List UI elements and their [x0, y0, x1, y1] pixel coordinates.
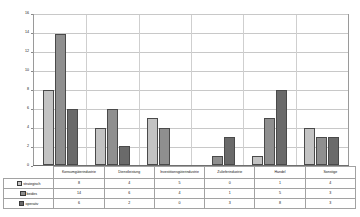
y-tick-mark: [31, 14, 33, 15]
bar[interactable]: [304, 128, 315, 166]
y-tick-label: 12: [25, 50, 29, 54]
table-value-cell: 5: [255, 189, 305, 199]
table-value-cell: 4: [154, 189, 204, 199]
table-row: operativ620383: [4, 199, 356, 209]
table-value-cell: 4: [104, 179, 154, 189]
legend-swatch-icon: [19, 201, 24, 206]
bar[interactable]: [159, 128, 170, 166]
table-header-row: KonsumgüterindustrieDienstleistungInvest…: [4, 167, 356, 179]
y-tick-label: 10: [25, 69, 29, 73]
y-tick-mark: [31, 128, 33, 129]
bar[interactable]: [43, 90, 54, 165]
bar-group: [34, 15, 86, 165]
y-tick-label: 4: [27, 126, 29, 130]
legend-swatch-icon: [17, 181, 22, 186]
table-category-header: Sonstige: [305, 167, 355, 179]
legend-entry[interactable]: strategisch: [4, 179, 54, 189]
bar[interactable]: [119, 146, 130, 165]
bar[interactable]: [147, 118, 158, 165]
table-category-header: Handel: [255, 167, 305, 179]
y-tick-label: 16: [25, 12, 29, 16]
bar[interactable]: [316, 137, 327, 165]
table-category-header: Investitionsgüterindustrie: [154, 167, 204, 179]
bar-groups: [34, 15, 348, 165]
table-category-header: Konsumgüterindustrie: [54, 167, 104, 179]
table-value-cell: 3: [305, 189, 355, 199]
bar-group: [191, 15, 243, 165]
y-tick-label: 14: [25, 31, 29, 35]
table-value-cell: 8: [255, 199, 305, 209]
table-value-cell: 0: [205, 179, 255, 189]
bar[interactable]: [224, 137, 235, 165]
data-table: KonsumgüterindustrieDienstleistungInvest…: [3, 166, 356, 209]
table-value-cell: 2: [104, 199, 154, 209]
table-value-cell: 6: [54, 199, 104, 209]
table-value-cell: 1: [205, 189, 255, 199]
bar[interactable]: [276, 90, 287, 165]
table-value-cell: 8: [54, 179, 104, 189]
bar[interactable]: [212, 156, 223, 165]
table-value-cell: 6: [104, 189, 154, 199]
plot-area: 0246810121416: [0, 0, 360, 170]
table-row: strategisch845014: [4, 179, 356, 189]
bar-group: [139, 15, 191, 165]
y-tick-mark: [31, 90, 33, 91]
table-value-cell: 4: [305, 179, 355, 189]
table-value-cell: 5: [154, 179, 204, 189]
legend-label: beides: [27, 191, 38, 195]
y-tick-mark: [31, 33, 33, 34]
table-value-cell: 0: [154, 199, 204, 209]
y-tick-mark: [31, 109, 33, 110]
table-category-header: Dienstleistung: [104, 167, 154, 179]
bar[interactable]: [264, 118, 275, 165]
table-corner-cell: [4, 167, 54, 179]
chart-container: 0246810121416 KonsumgüterindustrieDienst…: [0, 0, 360, 217]
legend-label: operativ: [25, 201, 38, 205]
legend-label: strategisch: [23, 181, 40, 185]
bar[interactable]: [55, 34, 66, 165]
y-tick-mark: [31, 52, 33, 53]
bar-group: [296, 15, 348, 165]
table-value-cell: 3: [205, 199, 255, 209]
y-tick-mark: [31, 71, 33, 72]
bar[interactable]: [328, 137, 339, 165]
y-tick-label: 6: [27, 107, 29, 111]
y-tick-mark: [31, 147, 33, 148]
y-tick-label: 8: [27, 88, 29, 92]
bar[interactable]: [67, 109, 78, 165]
table-value-cell: 14: [54, 189, 104, 199]
legend-swatch-icon: [20, 191, 25, 196]
bar[interactable]: [107, 109, 118, 165]
table-category-header: Zulieferindustrie: [205, 167, 255, 179]
y-tick-label: 2: [27, 145, 29, 149]
table-value-cell: 1: [255, 179, 305, 189]
legend-entry[interactable]: operativ: [4, 199, 54, 209]
bar-group: [86, 15, 138, 165]
table-row: beides1464153: [4, 189, 356, 199]
bar[interactable]: [95, 128, 106, 166]
bar[interactable]: [252, 156, 263, 165]
legend-entry[interactable]: beides: [4, 189, 54, 199]
data-table-wrap: KonsumgüterindustrieDienstleistungInvest…: [0, 166, 360, 217]
bar-group: [243, 15, 295, 165]
y-axis: 0246810121416: [0, 0, 31, 170]
table-value-cell: 3: [305, 199, 355, 209]
